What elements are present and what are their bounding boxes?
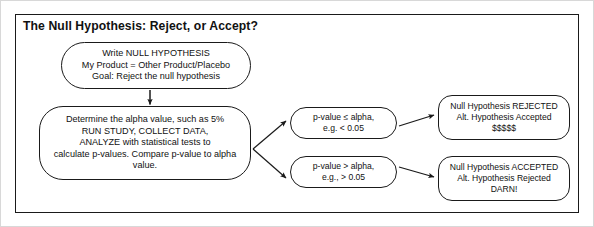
- node-line: $$$$$: [492, 123, 516, 134]
- page-title: The Null Hypothesis: Reject, or Accept?: [23, 19, 258, 33]
- node-line: Goal: Reject the null hypothesis: [92, 71, 220, 83]
- write-null-hypothesis-node: Write NULL HYPOTHESIS My Product = Other…: [61, 42, 251, 89]
- node-line: Null Hypothesis REJECTED: [450, 101, 557, 112]
- null-hypothesis-accepted-node: Null Hypothesis ACCEPTED Alt. Hypothesis…: [438, 156, 570, 201]
- node-line: e.g., > 0.05: [322, 172, 365, 183]
- flowchart-canvas: The Null Hypothesis: Reject, or Accept? …: [0, 0, 594, 227]
- node-line: p-value ≤ alpha,: [313, 112, 374, 123]
- node-line: DARN!: [491, 184, 518, 195]
- node-line: Determine the alpha value, such as 5%: [66, 114, 224, 126]
- node-line: ANALYZE with statistical tests to: [79, 137, 210, 149]
- node-line: Alt. Hypothesis Rejected: [457, 173, 551, 184]
- node-line: value.: [133, 160, 157, 172]
- determine-alpha-and-run-study-node: Determine the alpha value, such as 5% RU…: [39, 106, 251, 180]
- node-line: Write NULL HYPOTHESIS: [102, 48, 210, 60]
- node-line: p-value > alpha,: [313, 161, 374, 172]
- node-line: Alt. Hypothesis Accepted: [456, 112, 551, 123]
- node-line: calculate p-values. Compare p-value to a…: [54, 149, 236, 161]
- p-value-greater-than-alpha-node: p-value > alpha, e.g., > 0.05: [290, 156, 397, 188]
- p-value-less-than-or-equal-alpha-node: p-value ≤ alpha, e.g. < 0.05: [290, 107, 397, 139]
- node-line: My Product = Other Product/Placebo: [82, 60, 230, 72]
- node-line: RUN STUDY, COLLECT DATA,: [82, 126, 209, 138]
- node-line: Null Hypothesis ACCEPTED: [450, 162, 558, 173]
- null-hypothesis-rejected-node: Null Hypothesis REJECTED Alt. Hypothesis…: [438, 95, 570, 140]
- node-line: e.g. < 0.05: [323, 123, 364, 134]
